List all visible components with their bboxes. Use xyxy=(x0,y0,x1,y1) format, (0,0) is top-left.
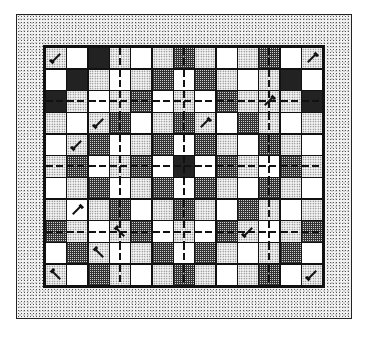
quilt-cell xyxy=(110,156,130,176)
quilt-cell xyxy=(153,243,173,263)
quilt-cell xyxy=(281,135,301,155)
vertical-stitch-line xyxy=(119,243,121,263)
vertical-stitch-line xyxy=(183,48,185,68)
horizontal-stitch-line xyxy=(238,100,258,102)
quilt-cell xyxy=(174,200,194,220)
quilt-cell xyxy=(217,178,237,198)
quilt-cell xyxy=(89,91,109,111)
quilt-cell xyxy=(281,70,301,90)
quilt-cell xyxy=(302,156,322,176)
quilt-cell xyxy=(67,265,87,285)
quilt-cell xyxy=(110,48,130,68)
quilt-cell xyxy=(238,48,258,68)
horizontal-stitch-line xyxy=(89,231,109,233)
vertical-stitch-line xyxy=(183,243,185,263)
quilt-cell xyxy=(195,48,215,68)
quilt-cell xyxy=(46,48,66,68)
vertical-stitch-line xyxy=(183,113,185,133)
horizontal-stitch-line xyxy=(195,165,215,167)
quilt-cell xyxy=(46,70,66,90)
quilt-cell xyxy=(153,91,173,111)
quilt-cell xyxy=(217,91,237,111)
horizontal-stitch-line xyxy=(46,165,66,167)
quilt-cell xyxy=(195,156,215,176)
quilt-cell xyxy=(46,156,66,176)
needle-arrow-icon xyxy=(200,118,210,128)
quilt-cell xyxy=(195,91,215,111)
quilt-cell xyxy=(67,135,87,155)
needle-arrow-icon xyxy=(307,270,317,280)
quilt-cell xyxy=(195,70,215,90)
quilt-cell xyxy=(238,156,258,176)
horizontal-stitch-line xyxy=(217,165,237,167)
quilt-cell xyxy=(238,243,258,263)
vertical-stitch-line xyxy=(268,200,270,220)
quilt-cell xyxy=(89,156,109,176)
quilt-cell xyxy=(89,178,109,198)
quilt-cell xyxy=(259,113,279,133)
horizontal-stitch-line xyxy=(67,100,87,102)
horizontal-stitch-line xyxy=(110,100,130,102)
quilt-cell xyxy=(89,221,109,241)
quilt-cell xyxy=(302,135,322,155)
quilt-cell xyxy=(259,200,279,220)
quilt-cell xyxy=(302,70,322,90)
quilt-cell xyxy=(110,113,130,133)
quilt-cell xyxy=(281,200,301,220)
quilt-cell xyxy=(238,200,258,220)
horizontal-stitch-line xyxy=(89,100,109,102)
horizontal-stitch-line xyxy=(46,100,66,102)
quilt-cell xyxy=(217,265,237,285)
quilt-cell xyxy=(89,113,109,133)
quilt-cell xyxy=(302,48,322,68)
horizontal-stitch-line xyxy=(217,231,237,233)
quilt-cell xyxy=(217,156,237,176)
quilt-cell xyxy=(131,243,151,263)
quilt-cell xyxy=(67,48,87,68)
quilt-cell xyxy=(174,70,194,90)
quilt-cell xyxy=(174,48,194,68)
quilt-cell xyxy=(131,200,151,220)
quilt-cell xyxy=(259,70,279,90)
horizontal-stitch-line xyxy=(67,231,87,233)
quilt-cell xyxy=(153,178,173,198)
quilt-cell xyxy=(67,221,87,241)
quilt-cell xyxy=(67,91,87,111)
quilt-cell xyxy=(238,265,258,285)
quilt-cell xyxy=(67,243,87,263)
quilt-cell xyxy=(131,135,151,155)
quilt-cell xyxy=(259,48,279,68)
needle-arrow-icon xyxy=(94,118,104,128)
quilt-cell xyxy=(89,135,109,155)
quilt-cell xyxy=(174,243,194,263)
quilt-cell xyxy=(174,113,194,133)
quilt-cell xyxy=(110,91,130,111)
quilt-cell xyxy=(238,91,258,111)
quilt-cell xyxy=(46,243,66,263)
quilt-cell xyxy=(110,178,130,198)
quilt-cell xyxy=(281,156,301,176)
quilt-cell xyxy=(195,243,215,263)
quilt-cell xyxy=(110,70,130,90)
horizontal-stitch-line xyxy=(281,165,301,167)
horizontal-stitch-line xyxy=(259,231,279,233)
quilt-cell xyxy=(238,113,258,133)
quilt-cell xyxy=(153,200,173,220)
quilt-cell xyxy=(281,48,301,68)
quilt-cell xyxy=(131,156,151,176)
quilt-cell xyxy=(302,243,322,263)
quilt-cell xyxy=(281,91,301,111)
quilt-cell xyxy=(281,243,301,263)
needle-arrow-icon xyxy=(94,248,104,258)
quilt-cell xyxy=(153,265,173,285)
quilt-cell xyxy=(131,48,151,68)
quilt-cell xyxy=(217,221,237,241)
quilt-cell xyxy=(302,221,322,241)
horizontal-stitch-line xyxy=(259,165,279,167)
quilt-cell xyxy=(302,200,322,220)
horizontal-stitch-line xyxy=(238,165,258,167)
quilt-cell xyxy=(67,113,87,133)
quilt-cell xyxy=(302,91,322,111)
quilt-cell xyxy=(281,221,301,241)
quilt-cell xyxy=(46,265,66,285)
